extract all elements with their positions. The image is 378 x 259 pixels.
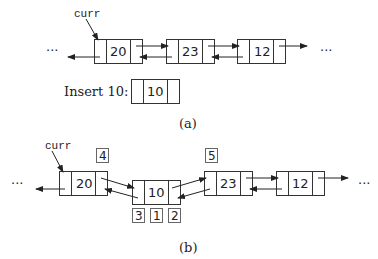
caption-b: (b) xyxy=(179,241,197,254)
step-label-4: 4 xyxy=(99,150,107,162)
step-label-5: 5 xyxy=(208,150,216,162)
ellipsis-right-a: ··· xyxy=(320,44,332,57)
next-arrow xyxy=(101,178,134,188)
curr-pointer-arrow xyxy=(86,19,98,40)
node-b-1-value: 10 xyxy=(148,186,165,199)
step-label-3: 3 xyxy=(135,210,143,222)
node-b-2-value: 23 xyxy=(220,177,237,190)
node-b-0-value: 20 xyxy=(76,177,93,190)
insert-label: Insert 10: xyxy=(64,85,128,98)
node-a-0-value: 20 xyxy=(110,45,127,58)
step-label-1: 1 xyxy=(153,210,161,222)
node-a-1-value: 23 xyxy=(182,45,199,58)
doubly-linked-list-insert-figure: curr ··· ··· 20 23 12 Insert 10: 10 (a) … xyxy=(0,0,378,259)
node-b-3-value: 12 xyxy=(292,177,309,190)
node-a-2-value: 12 xyxy=(254,45,271,58)
insert-node-value: 10 xyxy=(147,85,164,98)
next-arrow xyxy=(172,178,206,188)
step-label-2: 2 xyxy=(171,210,179,222)
ellipsis-left-a: ··· xyxy=(46,44,58,57)
prev-arrow xyxy=(105,189,138,198)
curr-pointer-label-a: curr xyxy=(74,9,100,20)
prev-arrow xyxy=(178,189,210,198)
curr-pointer-arrow xyxy=(52,151,63,172)
ellipsis-right-b: ··· xyxy=(358,177,370,190)
caption-a: (a) xyxy=(179,117,197,130)
ellipsis-left-b: ··· xyxy=(11,177,23,190)
curr-pointer-label-b: curr xyxy=(45,141,71,152)
